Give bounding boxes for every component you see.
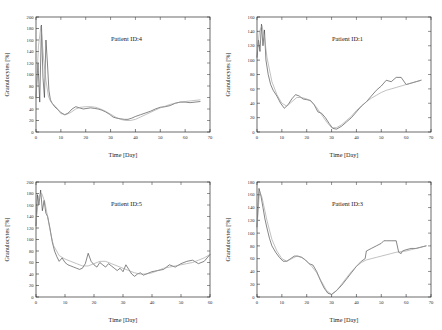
y-tick-label: 40 [29, 107, 34, 112]
y-tick-label: 60 [29, 260, 34, 265]
y-tick-label: 180 [248, 180, 256, 185]
x-tick-label: 70 [208, 135, 213, 140]
y-tick-label: 20 [29, 283, 34, 288]
x-tick-label: 10 [280, 300, 285, 305]
figure-grid: 0102030405060700204060801001201401601802… [0, 0, 442, 330]
y-tick-label: 60 [250, 87, 255, 92]
x-tick-label: 40 [354, 300, 359, 305]
x-tick-label: 30 [329, 135, 334, 140]
y-tick-label: 40 [250, 101, 255, 106]
x-tick-label: 30 [329, 300, 334, 305]
y-tick-label: 100 [27, 237, 35, 242]
x-axis-title: Time [Day] [109, 151, 138, 158]
y-tick-label: 180 [27, 191, 35, 196]
y-tick-label: 160 [27, 38, 35, 43]
y-tick-label: 0 [31, 130, 34, 135]
x-tick-label: 10 [59, 135, 64, 140]
x-tick-label: 60 [404, 135, 409, 140]
x-tick-label: 60 [183, 135, 188, 140]
x-tick-label: 20 [304, 300, 309, 305]
y-tick-label: 100 [248, 231, 256, 236]
panel-title: Patient ID:1 [332, 35, 363, 42]
x-tick-label: 50 [379, 300, 384, 305]
y-tick-label: 200 [27, 15, 35, 20]
y-tick-label: 80 [250, 72, 255, 77]
y-axis-title: Granulocytes [%] [3, 218, 10, 262]
y-tick-label: 0 [252, 295, 255, 300]
panel-patient-3: 010203040506070020406080100120140160180T… [221, 165, 442, 330]
x-tick-label: 50 [158, 135, 163, 140]
y-tick-label: 40 [250, 269, 255, 274]
x-tick-label: 20 [83, 135, 88, 140]
y-tick-label: 100 [27, 72, 35, 77]
y-tick-label: 160 [248, 192, 256, 197]
x-tick-label: 60 [404, 300, 409, 305]
plot-p3: 010203040506070020406080100120140160180T… [221, 165, 442, 330]
panel-patient-5: 0102030405060020406080100120140160180200… [0, 165, 221, 330]
y-tick-label: 120 [27, 226, 35, 231]
y-tick-label: 0 [252, 130, 255, 135]
x-tick-label: 70 [429, 135, 434, 140]
y-tick-label: 180 [27, 26, 35, 31]
y-tick-label: 140 [248, 205, 256, 210]
plot-p1: 010203040506070020406080100120140160Time… [221, 0, 442, 165]
y-tick-label: 80 [29, 249, 34, 254]
y-tick-label: 100 [248, 58, 256, 63]
y-tick-label: 20 [250, 115, 255, 120]
x-tick-label: 20 [304, 135, 309, 140]
x-tick-label: 40 [354, 135, 359, 140]
y-tick-label: 20 [29, 118, 34, 123]
panel-patient-4: 0102030405060700204060801001201401601802… [0, 0, 221, 165]
x-tick-label: 60 [208, 300, 213, 305]
x-tick-label: 40 [133, 135, 138, 140]
panel-title: Patient ID:4 [111, 35, 143, 42]
x-tick-label: 20 [92, 300, 97, 305]
y-tick-label: 120 [248, 218, 256, 223]
plot-p5: 0102030405060020406080100120140160180200… [0, 165, 221, 330]
y-axis-title: Granulocytes [%] [3, 53, 10, 97]
y-axis-title: Granulocytes [%] [224, 218, 231, 262]
x-tick-label: 10 [280, 135, 285, 140]
x-tick-label: 0 [256, 135, 259, 140]
x-tick-label: 0 [35, 135, 38, 140]
x-tick-label: 50 [179, 300, 184, 305]
y-axis-title: Granulocytes [%] [224, 53, 231, 97]
x-tick-label: 0 [35, 300, 38, 305]
x-tick-label: 0 [256, 300, 259, 305]
y-tick-label: 140 [27, 214, 35, 219]
x-tick-label: 30 [108, 135, 113, 140]
y-tick-label: 160 [248, 15, 256, 20]
x-tick-label: 50 [379, 135, 384, 140]
x-axis-title: Time [Day] [330, 316, 359, 323]
y-tick-label: 200 [27, 180, 35, 185]
panel-title: Patient ID:5 [111, 200, 142, 207]
y-tick-label: 140 [248, 29, 256, 34]
y-tick-label: 60 [250, 256, 255, 261]
x-axis-title: Time [Day] [109, 316, 138, 323]
x-tick-label: 40 [150, 300, 155, 305]
x-axis-title: Time [Day] [330, 151, 359, 158]
x-tick-label: 10 [63, 300, 68, 305]
y-tick-label: 20 [250, 282, 255, 287]
y-tick-label: 80 [29, 84, 34, 89]
y-tick-label: 160 [27, 203, 35, 208]
y-tick-label: 0 [31, 295, 34, 300]
y-tick-label: 80 [250, 244, 255, 249]
plot-p4: 0102030405060700204060801001201401601802… [0, 0, 221, 165]
y-tick-label: 120 [27, 61, 35, 66]
y-tick-label: 40 [29, 272, 34, 277]
panel-title: Patient ID:3 [332, 200, 363, 207]
y-tick-label: 120 [248, 43, 256, 48]
y-tick-label: 140 [27, 49, 35, 54]
panel-patient-1: 010203040506070020406080100120140160Time… [221, 0, 442, 165]
x-tick-label: 70 [429, 300, 434, 305]
y-tick-label: 60 [29, 95, 34, 100]
x-tick-label: 30 [121, 300, 126, 305]
